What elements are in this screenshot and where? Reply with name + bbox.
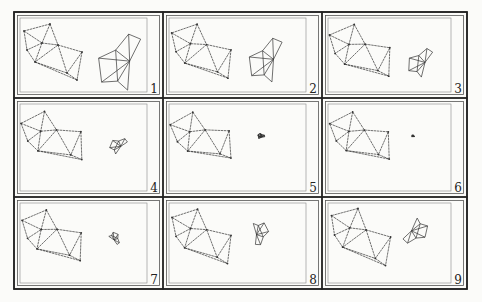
panel-inner-border	[18, 201, 160, 286]
right-mesh	[109, 232, 120, 244]
panel-6: 6	[322, 98, 467, 197]
left-mesh	[20, 110, 83, 160]
panel-2: 2	[163, 12, 322, 98]
panel-number-label: 5	[309, 181, 317, 195]
panel-plot-area	[20, 203, 147, 283]
figure-grid: 123456789	[0, 0, 482, 302]
panel-8: 8	[163, 197, 322, 289]
left-mesh	[331, 208, 392, 267]
panel-7: 7	[14, 197, 163, 289]
left-mesh	[171, 23, 232, 79]
panel-inner-border	[326, 201, 464, 286]
panel-5: 5	[163, 98, 322, 197]
panel-number-label: 8	[309, 273, 317, 287]
left-mesh	[21, 209, 82, 261]
panel-number-label: 6	[454, 181, 462, 195]
panel-inner-border	[326, 16, 464, 95]
panel-inner-border	[18, 16, 160, 95]
panel-3: 3	[322, 12, 467, 98]
panel-plot-area	[20, 104, 147, 191]
right-mesh	[409, 49, 433, 78]
panel-inner-border	[18, 102, 160, 194]
panel-plot-area	[169, 203, 306, 283]
left-mesh	[329, 24, 391, 77]
panel-border	[163, 98, 322, 197]
panel-border	[163, 197, 322, 289]
panel-border	[322, 98, 467, 197]
panel-number-label: 1	[150, 82, 158, 96]
left-mesh	[329, 111, 390, 160]
right-mesh	[249, 38, 282, 82]
panel-border	[14, 197, 163, 289]
panel-inner-border	[326, 102, 464, 194]
right-mesh	[110, 139, 128, 154]
panel-number-label: 7	[150, 273, 158, 287]
panel-plot-area	[169, 104, 306, 191]
right-mesh	[412, 135, 415, 137]
panel-border	[322, 12, 467, 98]
panel-9: 9	[322, 197, 467, 289]
right-mesh	[99, 34, 141, 90]
panel-inner-border	[167, 16, 319, 95]
panel-plot-area	[328, 203, 451, 283]
panel-border	[14, 98, 163, 197]
panel-1: 1	[14, 12, 163, 98]
right-mesh	[403, 218, 428, 243]
panel-number-label: 2	[309, 82, 317, 96]
right-mesh	[253, 223, 268, 245]
panel-number-label: 4	[150, 181, 158, 195]
panel-number-label: 3	[454, 82, 462, 96]
panels-group: 123456789	[14, 12, 467, 289]
left-mesh	[169, 111, 232, 159]
panel-border	[14, 12, 163, 98]
panel-inner-border	[167, 201, 319, 286]
left-mesh	[23, 23, 83, 81]
panel-inner-border	[167, 102, 319, 194]
left-mesh	[171, 208, 232, 264]
panel-border	[322, 197, 467, 289]
panel-plot-area	[169, 18, 306, 92]
right-mesh	[258, 134, 265, 139]
panel-border	[163, 12, 322, 98]
panel-number-label: 9	[454, 273, 462, 287]
panel-4: 4	[14, 98, 163, 197]
